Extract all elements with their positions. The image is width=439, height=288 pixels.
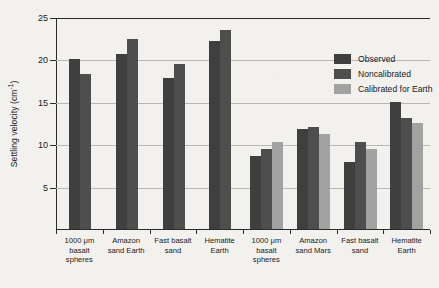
bar (355, 142, 366, 229)
y-axis-tick-label: 25 (38, 14, 48, 23)
bar (209, 41, 220, 229)
bar-group (197, 18, 244, 229)
legend-swatch-calib (334, 84, 351, 94)
x-axis-label: HematiteEarth (383, 236, 430, 265)
bar (366, 149, 377, 229)
x-axis-label-line: 1000 μm (244, 236, 289, 246)
plot-area: 252015105 ObservedNoncalibratedCalibrate… (56, 18, 430, 230)
bar (272, 142, 283, 229)
legend-item: Observed (334, 54, 433, 64)
bar-group (383, 18, 430, 229)
legend-swatch-noncal (334, 69, 351, 79)
y-axis-title-tail: ) (9, 81, 19, 84)
x-axis-label-line: sand (338, 246, 383, 256)
bar (261, 149, 272, 229)
x-axis-labels: 1000 μmbasaltspheresAmazonsand EarthFast… (56, 236, 430, 265)
figure: Settling velocity (cm-1) 252015105 Obser… (0, 0, 439, 288)
y-axis-title-exponent: -1 (7, 84, 14, 90)
x-axis-label-line: Earth (384, 246, 429, 256)
bar (401, 118, 412, 229)
x-axis-label-line: Hematite (197, 236, 242, 246)
legend-label: Observed (358, 55, 395, 64)
bar-group (337, 18, 384, 229)
bar (308, 127, 319, 229)
x-axis-label-line: basalt (57, 246, 102, 256)
bar (116, 54, 127, 229)
bar (220, 30, 231, 229)
x-axis-label: Fast basaltsand (150, 236, 197, 265)
y-axis-tick-label: 10 (38, 141, 48, 150)
y-axis-tick (50, 103, 56, 104)
x-axis-label-line: Amazon (291, 236, 336, 246)
legend-label: Calibrated for Earth (358, 85, 433, 94)
x-axis-label: 1000 μmbasaltspheres (243, 236, 290, 265)
legend: ObservedNoncalibratedCalibrated for Eart… (334, 54, 433, 94)
x-axis-label: 1000 μmbasaltspheres (56, 236, 103, 265)
x-axis-tick (56, 230, 57, 234)
x-axis-label-line: spheres (57, 255, 102, 265)
x-axis-label-line: sand Earth (104, 246, 149, 256)
x-axis-label: HematiteEarth (196, 236, 243, 265)
bar-group (104, 18, 151, 229)
bar-group (150, 18, 197, 229)
x-axis-label-line: Fast basalt (338, 236, 383, 246)
x-axis-label-line: 1000 μm (57, 236, 102, 246)
x-axis-label-line: Earth (197, 246, 242, 256)
x-axis-label-line: Amazon (104, 236, 149, 246)
legend-label: Noncalibrated (358, 70, 411, 79)
x-axis-tick (150, 230, 151, 234)
x-axis-label-line: sand (151, 246, 196, 256)
legend-swatch-observed (334, 54, 351, 64)
bar (250, 156, 261, 229)
x-axis-tick (196, 230, 197, 234)
x-axis-label-line: basalt (244, 246, 289, 256)
bar (80, 74, 91, 229)
bar (69, 59, 80, 229)
x-axis-label-line: Hematite (384, 236, 429, 246)
bar (127, 39, 138, 229)
bar (319, 134, 330, 229)
x-axis-label: Amazonsand Mars (290, 236, 337, 265)
y-axis-tick-label: 20 (38, 56, 48, 65)
y-axis-tick (50, 188, 56, 189)
bar (344, 162, 355, 229)
y-axis-tick (50, 145, 56, 146)
y-axis-title: Settling velocity (cm-1) (6, 18, 20, 230)
bar-group (57, 18, 104, 229)
legend-item: Calibrated for Earth (334, 84, 433, 94)
x-axis-ticks (56, 230, 430, 235)
x-axis-tick (103, 230, 104, 234)
x-axis-tick (290, 230, 291, 234)
bar-group (290, 18, 337, 229)
x-axis-tick (383, 230, 384, 234)
x-axis-label-line: sand Mars (291, 246, 336, 256)
bar (174, 64, 185, 229)
x-axis-tick (243, 230, 244, 234)
x-axis-tick (337, 230, 338, 234)
x-axis-label: Amazonsand Earth (103, 236, 150, 265)
x-axis-tick (430, 230, 431, 234)
y-axis-tick-label: 15 (38, 98, 48, 107)
bar (297, 129, 308, 229)
bar (412, 123, 423, 229)
bar-groups (57, 18, 430, 229)
x-axis-label-line: spheres (244, 255, 289, 265)
y-axis-tick (50, 60, 56, 61)
bar-group (244, 18, 291, 229)
y-axis-tick-label: 5 (43, 183, 48, 192)
legend-item: Noncalibrated (334, 69, 433, 79)
bar (390, 102, 401, 229)
bar (163, 78, 174, 229)
x-axis-label: Fast basaltsand (337, 236, 384, 265)
y-axis-title-text: Settling velocity (cm (9, 90, 19, 168)
y-axis-tick (50, 18, 56, 19)
x-axis-label-line: Fast basalt (151, 236, 196, 246)
